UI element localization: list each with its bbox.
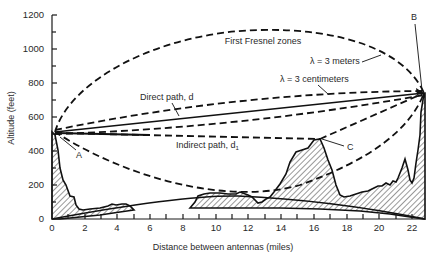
point-c-label: C [347, 142, 354, 152]
svg-text:0: 0 [49, 222, 54, 233]
svg-text:14: 14 [276, 222, 287, 233]
svg-text:12: 12 [243, 222, 254, 233]
point-b-label: B [411, 12, 417, 22]
svg-text:2: 2 [82, 222, 87, 233]
fresnel-zone-3cm-lower [55, 95, 424, 134]
svg-text:18: 18 [342, 222, 353, 233]
fresnel-zones-label: First Fresnel zones [225, 36, 302, 46]
svg-text:20: 20 [374, 222, 385, 233]
indirect-path-segment-2 [320, 93, 424, 139]
y-axis-title: Altitude (feet) [6, 91, 16, 145]
svg-text:10: 10 [211, 222, 222, 233]
fresnel-diagram: 0 200 400 600 800 1000 1200 0 2 4 [0, 0, 436, 257]
x-axis-title: Distance between antennas (miles) [153, 242, 294, 252]
svg-text:600: 600 [28, 111, 44, 122]
svg-text:1000: 1000 [23, 43, 44, 54]
direct-path-line [55, 93, 424, 132]
lambda-3m-leader [362, 55, 381, 62]
lambda-3m-label: λ = 3 meters [310, 56, 360, 66]
direct-path-label: Direct path, d [140, 92, 194, 102]
point-c-leader [322, 139, 344, 146]
indirect-path-solid-start [55, 133, 150, 135]
svg-text:1200: 1200 [23, 9, 44, 20]
svg-text:400: 400 [28, 145, 44, 156]
fresnel-zone-3m [55, 30, 424, 192]
svg-text:16: 16 [309, 222, 320, 233]
svg-text:800: 800 [28, 77, 44, 88]
x-axis-ticks [68, 214, 412, 219]
svg-text:8: 8 [180, 222, 185, 233]
fresnel-zone-3cm-upper [55, 91, 424, 130]
indirect-path-label: Indirect path, d1 [176, 140, 240, 151]
lambda-3cm-leader [318, 85, 328, 94]
svg-text:22: 22 [407, 222, 418, 233]
svg-text:0: 0 [39, 213, 44, 224]
point-a-label: A [76, 150, 82, 160]
y-axis-tick-labels: 0 200 400 600 800 1000 1200 [23, 9, 44, 224]
x-axis-tick-labels: 0 2 4 6 8 10 12 14 16 18 20 22 [49, 222, 417, 233]
svg-text:6: 6 [147, 222, 152, 233]
lambda-3cm-label: λ = 3 centimeters [280, 74, 349, 84]
svg-text:200: 200 [28, 179, 44, 190]
svg-text:4: 4 [114, 222, 119, 233]
